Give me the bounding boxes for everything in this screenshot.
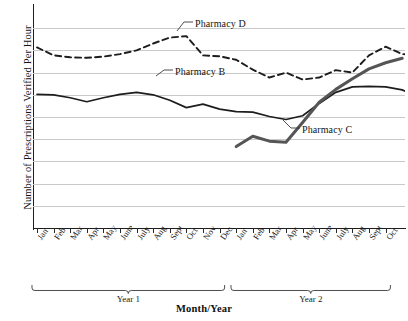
plot-area xyxy=(33,6,405,228)
line-chart: Number of Prescriptions Verified Per Hou… xyxy=(0,0,408,321)
y-axis-title: Number of Prescriptions Verified Per Hou… xyxy=(22,3,33,233)
series-lines xyxy=(33,6,405,228)
year-bracket xyxy=(230,285,391,294)
series-label-pharmacy-c: Pharmacy C xyxy=(302,124,352,135)
x-axis-title: Month/Year xyxy=(0,303,408,314)
series-line-pharmacy-b xyxy=(37,86,405,119)
series-label-pharmacy-b: Pharmacy B xyxy=(175,66,225,77)
year-bracket xyxy=(31,285,226,294)
series-label-pharmacy-d: Pharmacy D xyxy=(195,18,246,29)
